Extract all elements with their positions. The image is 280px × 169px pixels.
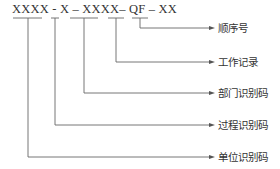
label-work-record: 工作记录: [218, 56, 258, 68]
label-unit-code: 单位识别码: [218, 151, 268, 163]
label-process-code: 过程识别码: [218, 119, 268, 131]
label-sequence-number: 顺序号: [218, 22, 248, 34]
label-department-code: 部门识别码: [218, 87, 268, 99]
